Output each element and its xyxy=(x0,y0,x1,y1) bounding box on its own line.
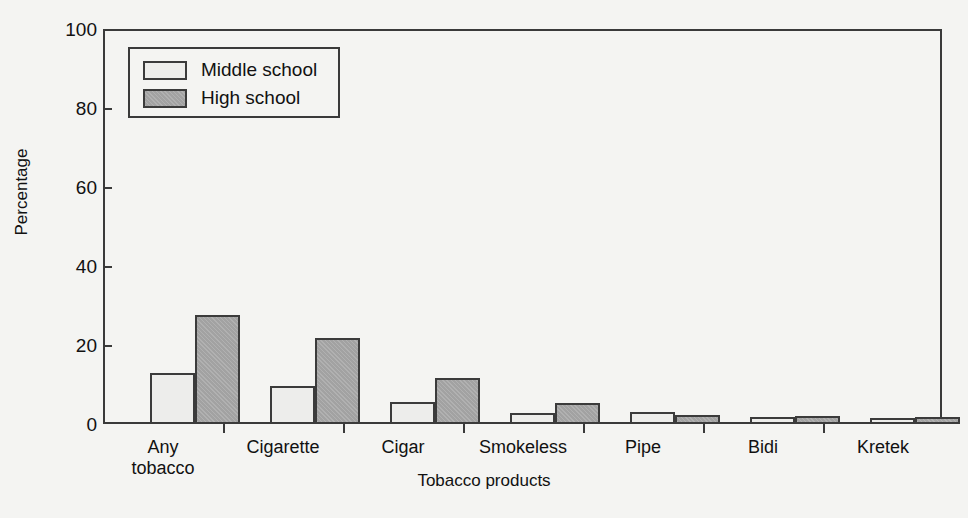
x-tick-mark xyxy=(703,424,705,433)
bar-high-school-smokeless xyxy=(555,403,600,424)
bar-middle-school-bidi xyxy=(750,417,795,425)
x-category-label-smokeless: Smokeless xyxy=(463,437,583,458)
bar-high-school-cigarette xyxy=(315,338,360,425)
bar-middle-school-kretek xyxy=(870,418,915,424)
legend: Middle school High school xyxy=(128,47,340,118)
y-tick-label: 60 xyxy=(51,178,97,197)
y-axis-title: Percentage xyxy=(12,102,32,282)
bar-middle-school-cigarette xyxy=(270,386,315,424)
bar-high-school-bidi xyxy=(795,416,840,424)
bar-high-school-pipe xyxy=(675,415,720,424)
bar-middle-school-smokeless xyxy=(510,413,555,424)
x-tick-mark xyxy=(823,424,825,433)
x-category-label-bidi: Bidi xyxy=(703,437,823,458)
bar-middle-school-cigar xyxy=(390,402,435,424)
bar-high-school-kretek xyxy=(915,417,960,425)
legend-swatch-icon-high-school xyxy=(143,89,187,108)
x-category-label-pipe: Pipe xyxy=(583,437,703,458)
legend-label-high-school: High school xyxy=(201,87,300,109)
x-category-label-cigar: Cigar xyxy=(343,437,463,458)
bar-high-school-any-tobacco xyxy=(195,315,240,424)
y-tick-label: 40 xyxy=(51,257,97,276)
x-axis-title: Tobacco products xyxy=(0,471,968,491)
x-category-label-kretek: Kretek xyxy=(823,437,943,458)
x-tick-mark xyxy=(463,424,465,433)
x-tick-mark xyxy=(223,424,225,433)
y-tick-label: 80 xyxy=(51,99,97,118)
x-tick-mark xyxy=(343,424,345,433)
legend-swatch-icon-middle-school xyxy=(143,61,187,80)
x-category-label-cigarette: Cigarette xyxy=(223,437,343,458)
y-tick-label: 100 xyxy=(51,20,97,39)
y-tick-label: 20 xyxy=(51,336,97,355)
chart-figure: 100 80 60 40 20 0 Percentage xyxy=(0,0,968,518)
legend-entry-middle-school: Middle school xyxy=(143,59,317,81)
legend-label-middle-school: Middle school xyxy=(201,59,317,81)
bar-high-school-cigar xyxy=(435,378,480,424)
legend-entry-high-school: High school xyxy=(143,87,300,109)
bar-middle-school-any-tobacco xyxy=(150,373,195,424)
bar-middle-school-pipe xyxy=(630,412,675,424)
y-tick-label: 0 xyxy=(51,415,97,434)
x-tick-mark xyxy=(583,424,585,433)
